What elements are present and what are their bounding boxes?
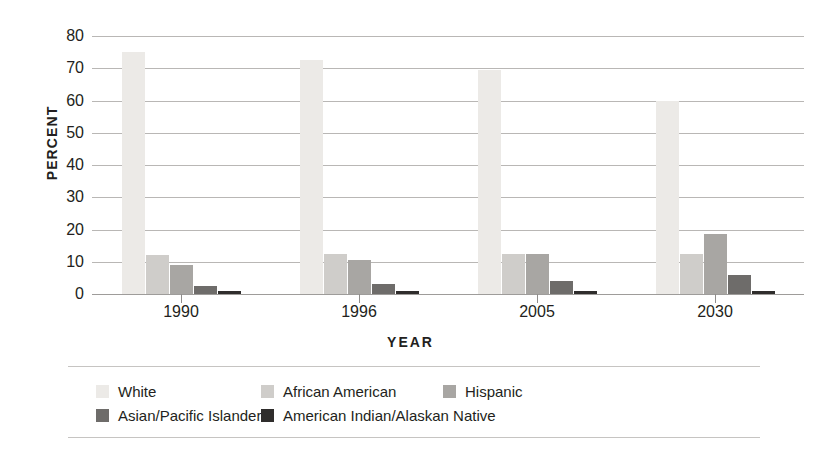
- y-tick-label-20: 20: [50, 221, 84, 239]
- bar-2005-hispanic: [526, 254, 549, 294]
- bar-group-2030: [656, 36, 775, 294]
- legend-label: Hispanic: [465, 383, 523, 400]
- bar-2030-white: [656, 101, 679, 295]
- x-axis-tick-labels: 1990199620052030: [92, 303, 804, 329]
- bar-1990-african-american: [146, 255, 169, 294]
- legend-row: WhiteAfrican AmericanHispanic: [68, 379, 760, 403]
- legend-item-american-indian-alaskan-native[interactable]: American Indian/Alaskan Native: [261, 407, 496, 424]
- legend-label: American Indian/Alaskan Native: [283, 407, 496, 424]
- bar-1996-asian-pacific-islander: [372, 284, 395, 294]
- legend-swatch-icon: [96, 409, 109, 422]
- bar-2005-american-indian-alaskan-native: [574, 291, 597, 294]
- cropped-title-strip: [0, 0, 821, 14]
- bar-2030-african-american: [680, 254, 703, 294]
- y-tick-label-60: 60: [50, 92, 84, 110]
- y-tick-label-80: 80: [50, 27, 84, 45]
- x-tick-label-1990: 1990: [136, 303, 226, 321]
- y-tick-label-10: 10: [50, 253, 84, 271]
- bar-1990-american-indian-alaskan-native: [218, 291, 241, 294]
- y-tick-label-0: 0: [50, 285, 84, 303]
- x-tick-label-1996: 1996: [314, 303, 404, 321]
- x-axis-title: YEAR: [0, 334, 821, 350]
- legend-divider-bottom: [68, 437, 760, 438]
- y-axis-tick-labels: 80706050403020100: [44, 36, 84, 294]
- x-tick-label-2005: 2005: [492, 303, 582, 321]
- bar-1990-hispanic: [170, 265, 193, 294]
- bar-1996-african-american: [324, 254, 347, 294]
- legend-swatch-icon: [261, 409, 274, 422]
- x-tick-mark-1996: [359, 294, 360, 303]
- bar-1996-white: [300, 60, 323, 294]
- y-tick-label-40: 40: [50, 156, 84, 174]
- legend-label: White: [118, 383, 156, 400]
- bar-2005-african-american: [502, 254, 525, 294]
- legend-label: Asian/Pacific Islander: [118, 407, 261, 424]
- bar-2005-white: [478, 70, 501, 294]
- bar-2030-hispanic: [704, 234, 727, 294]
- y-tick-label-70: 70: [50, 59, 84, 77]
- legend-label: African American: [283, 383, 396, 400]
- x-tick-mark-1990: [181, 294, 182, 303]
- y-tick-label-30: 30: [50, 188, 84, 206]
- legend-item-asian-pacific-islander[interactable]: Asian/Pacific Islander: [96, 407, 261, 424]
- x-tick-mark-2005: [537, 294, 538, 303]
- y-tick-label-50: 50: [50, 124, 84, 142]
- bar-group-1990: [122, 36, 241, 294]
- bar-group-1996: [300, 36, 419, 294]
- plot-area: [92, 36, 804, 294]
- bar-2005-asian-pacific-islander: [550, 281, 573, 294]
- x-tick-label-2030: 2030: [670, 303, 760, 321]
- legend-swatch-icon: [96, 385, 109, 398]
- bar-1996-american-indian-alaskan-native: [396, 291, 419, 294]
- bar-1996-hispanic: [348, 260, 371, 294]
- gridline-0: [92, 294, 804, 295]
- x-tick-mark-2030: [715, 294, 716, 303]
- bar-2030-asian-pacific-islander: [728, 275, 751, 294]
- bar-1990-asian-pacific-islander: [194, 286, 217, 294]
- legend-item-hispanic[interactable]: Hispanic: [443, 383, 523, 400]
- legend-items: WhiteAfrican AmericanHispanicAsian/Pacif…: [68, 367, 760, 437]
- bar-group-2005: [478, 36, 597, 294]
- legend-swatch-icon: [443, 385, 456, 398]
- legend-item-african-american[interactable]: African American: [261, 383, 396, 400]
- legend-swatch-icon: [261, 385, 274, 398]
- bar-1990-white: [122, 52, 145, 294]
- legend-item-white[interactable]: White: [96, 383, 156, 400]
- legend: WhiteAfrican AmericanHispanicAsian/Pacif…: [68, 366, 760, 438]
- legend-row: Asian/Pacific IslanderAmerican Indian/Al…: [68, 403, 760, 427]
- bar-2030-american-indian-alaskan-native: [752, 291, 775, 294]
